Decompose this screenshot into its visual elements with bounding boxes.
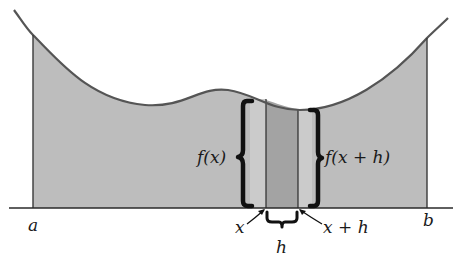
strip-right-light [298,109,312,208]
label-b: b [423,210,434,230]
strip-left-light [250,99,266,208]
shaded-area-region [33,35,427,208]
label-x-plus-h: x + h [323,217,369,237]
arrowhead-x-plus-h-icon [299,209,306,215]
label-h: h [276,237,287,257]
label-f-x: f(x) [195,147,226,167]
label-a: a [28,215,38,235]
label-f-x-plus-h: f(x + h) [323,147,390,167]
brace-h-icon [267,212,297,227]
strip-h-dark [266,100,298,208]
label-x: x [235,217,245,237]
area-under-curve-diagram: a b f(x) f(x + h) x x + h h [0,0,453,263]
